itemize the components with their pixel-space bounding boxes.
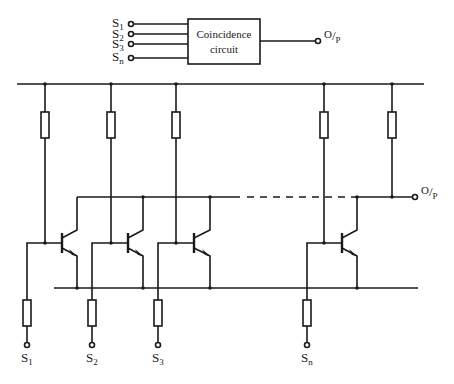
block-input-terminal-icon bbox=[129, 56, 134, 61]
input-terminal-icon bbox=[25, 343, 30, 348]
stage-3: S3 bbox=[152, 82, 212, 367]
input-label-s1: S1 bbox=[21, 350, 33, 367]
input-terminal-icon bbox=[90, 343, 95, 348]
box-label-line1: Coincidence bbox=[197, 28, 252, 40]
block-diagram: S1 S2 S3 Sn Coincidence circuit O/P bbox=[112, 15, 341, 66]
input-label-s3: S3 bbox=[152, 350, 164, 367]
stage-2: S2 bbox=[86, 82, 145, 367]
base-resistor-icon bbox=[154, 300, 162, 326]
pullup-resistor-icon bbox=[388, 112, 396, 138]
input-label-s2: S2 bbox=[86, 350, 98, 367]
input-label-sn: Sn bbox=[301, 350, 313, 367]
collector-resistor-icon bbox=[320, 112, 328, 138]
stage-n: Sn bbox=[301, 82, 359, 367]
coincidence-circuit-box bbox=[188, 19, 260, 64]
block-input-terminal-icon bbox=[129, 22, 134, 27]
base-resistor-icon bbox=[23, 300, 31, 326]
base-resistor-icon bbox=[88, 300, 96, 326]
output-terminal-icon bbox=[413, 195, 418, 200]
box-label-line2: circuit bbox=[210, 43, 238, 55]
input-terminal-icon bbox=[156, 343, 161, 348]
block-input-terminal-icon bbox=[129, 32, 134, 37]
collector-resistor-icon bbox=[41, 112, 49, 138]
circuit-output-label: O/P bbox=[421, 184, 438, 201]
collector-resistor-icon bbox=[107, 112, 115, 138]
transistor-circuit: O/P S1 bbox=[17, 82, 438, 367]
junction-dot bbox=[390, 82, 394, 86]
base-resistor-icon bbox=[303, 300, 311, 326]
block-input-terminal-icon bbox=[129, 42, 134, 47]
input-terminal-icon bbox=[305, 343, 310, 348]
block-output-label: O/P bbox=[324, 28, 341, 45]
coincidence-circuit-diagram: S1 S2 S3 Sn Coincidence circuit O/P O/P bbox=[0, 0, 454, 384]
junction-dot bbox=[390, 195, 394, 199]
block-output-terminal-icon bbox=[316, 39, 321, 44]
stage-1: S1 bbox=[21, 82, 79, 367]
collector-resistor-icon bbox=[172, 112, 180, 138]
